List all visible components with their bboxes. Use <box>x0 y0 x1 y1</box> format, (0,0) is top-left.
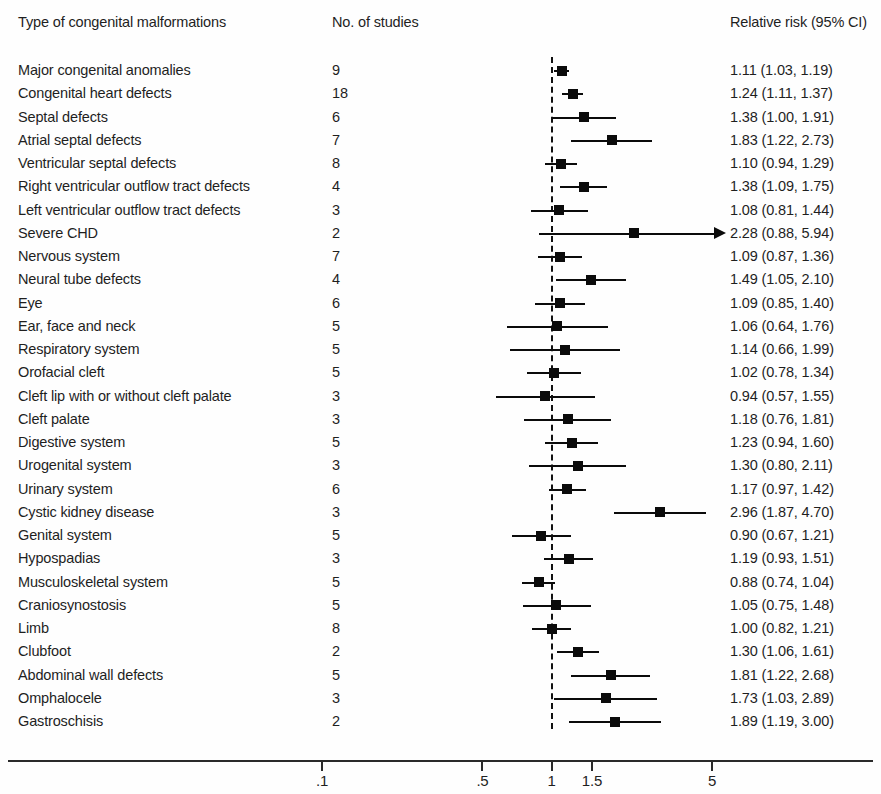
table-row: Cystic kidney disease32.96 (1.87, 4.70) <box>0 504 881 527</box>
x-axis-tick <box>711 760 713 771</box>
row-study-count: 2 <box>332 643 340 659</box>
row-label: Musculoskeletal system <box>18 574 168 590</box>
row-study-count: 3 <box>332 411 340 427</box>
row-relative-risk: 1.38 (1.00, 1.91) <box>730 109 834 125</box>
row-label: Abdominal wall defects <box>18 667 163 683</box>
table-row: Clubfoot21.30 (1.06, 1.61) <box>0 643 881 666</box>
row-label: Major congenital anomalies <box>18 62 191 78</box>
row-study-count: 5 <box>332 667 340 683</box>
row-relative-risk: 1.89 (1.19, 3.00) <box>730 713 834 729</box>
row-relative-risk: 1.11 (1.03, 1.19) <box>730 62 833 78</box>
row-study-count: 18 <box>332 85 348 101</box>
row-study-count: 3 <box>332 550 340 566</box>
row-study-count: 7 <box>332 132 340 148</box>
row-label: Ear, face and neck <box>18 318 135 334</box>
table-row: Respiratory system51.14 (0.66, 1.99) <box>0 341 881 364</box>
row-study-count: 5 <box>332 364 340 380</box>
table-row: Congenital heart defects181.24 (1.11, 1.… <box>0 85 881 108</box>
table-row: Nervous system71.09 (0.87, 1.36) <box>0 248 881 271</box>
table-row: Eye61.09 (0.85, 1.40) <box>0 295 881 318</box>
table-row: Atrial septal defects71.83 (1.22, 2.73) <box>0 132 881 155</box>
table-row: Urogenital system31.30 (0.80, 2.11) <box>0 457 881 480</box>
table-row: Severe CHD22.28 (0.88, 5.94) <box>0 225 881 248</box>
table-row: Abdominal wall defects51.81 (1.22, 2.68) <box>0 667 881 690</box>
table-row: Craniosynostosis51.05 (0.75, 1.48) <box>0 597 881 620</box>
row-relative-risk: 1.30 (0.80, 2.11) <box>730 457 833 473</box>
row-relative-risk: 1.81 (1.22, 2.68) <box>730 667 834 683</box>
table-row: Limb81.00 (0.82, 1.21) <box>0 620 881 643</box>
table-row: Digestive system51.23 (0.94, 1.60) <box>0 434 881 457</box>
table-row: Hypospadias31.19 (0.93, 1.51) <box>0 550 881 573</box>
row-relative-risk: 1.19 (0.93, 1.51) <box>730 550 834 566</box>
row-label: Atrial septal defects <box>18 132 141 148</box>
table-row: Genital system50.90 (0.67, 1.21) <box>0 527 881 550</box>
x-axis-tick <box>551 760 553 771</box>
forest-plot-figure: Type of congenital malformations No. of … <box>0 0 881 794</box>
row-relative-risk: 2.96 (1.87, 4.70) <box>730 504 834 520</box>
row-relative-risk: 1.17 (0.97, 1.42) <box>730 481 834 497</box>
table-row: Ear, face and neck51.06 (0.64, 1.76) <box>0 318 881 341</box>
table-row: Right ventricular outflow tract defects4… <box>0 178 881 201</box>
row-label: Hypospadias <box>18 550 100 566</box>
row-study-count: 5 <box>332 318 340 334</box>
row-label: Urogenital system <box>18 457 132 473</box>
row-relative-risk: 1.10 (0.94, 1.29) <box>730 155 834 171</box>
row-study-count: 4 <box>332 178 340 194</box>
row-label: Digestive system <box>18 434 125 450</box>
row-study-count: 6 <box>332 109 340 125</box>
column-header-no-of-studies: No. of studies <box>332 14 419 30</box>
row-study-count: 2 <box>332 225 340 241</box>
row-relative-risk: 1.05 (0.75, 1.48) <box>730 597 834 613</box>
table-row: Musculoskeletal system50.88 (0.74, 1.04) <box>0 574 881 597</box>
row-label: Gastroschisis <box>18 713 103 729</box>
row-relative-risk: 2.28 (0.88, 5.94) <box>730 225 834 241</box>
row-relative-risk: 1.08 (0.81, 1.44) <box>730 202 834 218</box>
row-label: Limb <box>18 620 49 636</box>
row-label: Respiratory system <box>18 341 139 357</box>
column-header-relative-risk: Relative risk (95% CI) <box>730 14 867 30</box>
row-study-count: 5 <box>332 341 340 357</box>
table-row: Gastroschisis21.89 (1.19, 3.00) <box>0 713 881 736</box>
row-study-count: 5 <box>332 574 340 590</box>
table-row: Urinary system61.17 (0.97, 1.42) <box>0 481 881 504</box>
row-label: Nervous system <box>18 248 120 264</box>
x-axis-tick <box>321 760 323 771</box>
row-label: Cleft palate <box>18 411 90 427</box>
row-relative-risk: 0.90 (0.67, 1.21) <box>730 527 834 543</box>
row-study-count: 8 <box>332 620 340 636</box>
row-label: Neural tube defects <box>18 271 141 287</box>
column-header-malformation-type: Type of congenital malformations <box>18 14 226 30</box>
table-row: Cleft palate31.18 (0.76, 1.81) <box>0 411 881 434</box>
table-row: Orofacial cleft51.02 (0.78, 1.34) <box>0 364 881 387</box>
row-relative-risk: 1.09 (0.87, 1.36) <box>730 248 834 264</box>
row-relative-risk: 1.73 (1.03, 2.89) <box>730 690 834 706</box>
row-label: Orofacial cleft <box>18 364 104 380</box>
row-relative-risk: 1.02 (0.78, 1.34) <box>730 364 834 380</box>
table-row: Neural tube defects41.49 (1.05, 2.10) <box>0 271 881 294</box>
table-row: Cleft lip with or without cleft palate30… <box>0 388 881 411</box>
row-study-count: 5 <box>332 527 340 543</box>
table-row: Septal defects61.38 (1.00, 1.91) <box>0 109 881 132</box>
row-study-count: 9 <box>332 62 340 78</box>
row-relative-risk: 1.18 (0.76, 1.81) <box>730 411 834 427</box>
x-axis-tick-label: 5 <box>708 772 716 789</box>
row-study-count: 3 <box>332 690 340 706</box>
row-study-count: 3 <box>332 388 340 404</box>
row-study-count: 5 <box>332 434 340 450</box>
row-study-count: 3 <box>332 202 340 218</box>
row-study-count: 3 <box>332 457 340 473</box>
x-axis-tick-label: 1 <box>547 772 555 789</box>
row-label: Left ventricular outflow tract defects <box>18 202 240 218</box>
row-label: Genital system <box>18 527 112 543</box>
row-study-count: 7 <box>332 248 340 264</box>
x-axis-tick-label: .1 <box>316 772 328 789</box>
row-label: Septal defects <box>18 109 108 125</box>
row-label: Urinary system <box>18 481 113 497</box>
row-relative-risk: 1.83 (1.22, 2.73) <box>730 132 834 148</box>
row-label: Congenital heart defects <box>18 85 172 101</box>
row-study-count: 4 <box>332 271 340 287</box>
x-axis-tick <box>591 760 593 771</box>
row-label: Craniosynostosis <box>18 597 126 613</box>
row-relative-risk: 0.88 (0.74, 1.04) <box>730 574 834 590</box>
row-label: Cleft lip with or without cleft palate <box>18 388 232 404</box>
